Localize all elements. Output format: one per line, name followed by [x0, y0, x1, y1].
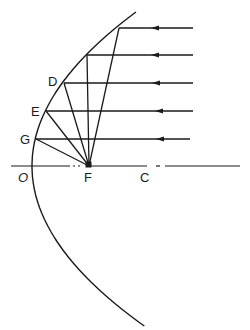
- reflected-ray-3: [64, 83, 89, 166]
- parabolic-mirror-diagram: D E G O F C: [0, 0, 250, 330]
- label-d: D: [48, 74, 57, 89]
- label-e: E: [31, 104, 40, 119]
- arrowhead-icon: [151, 26, 159, 31]
- label-c: C: [140, 170, 149, 185]
- incoming-rays: [36, 28, 193, 139]
- arrowhead-icon: [152, 81, 160, 86]
- arrowhead-icon: [156, 137, 164, 142]
- focus-point: [86, 162, 92, 168]
- label-g: G: [20, 132, 30, 147]
- label-o: O: [18, 170, 28, 185]
- reflected-ray-1: [89, 28, 119, 166]
- reflected-ray-5: [36, 139, 89, 166]
- arrowhead-icon: [151, 53, 159, 58]
- label-f: F: [84, 170, 92, 185]
- reflected-rays: [36, 28, 119, 166]
- arrowhead-icon: [155, 109, 163, 114]
- parabolic-mirror-curve: [32, 12, 144, 326]
